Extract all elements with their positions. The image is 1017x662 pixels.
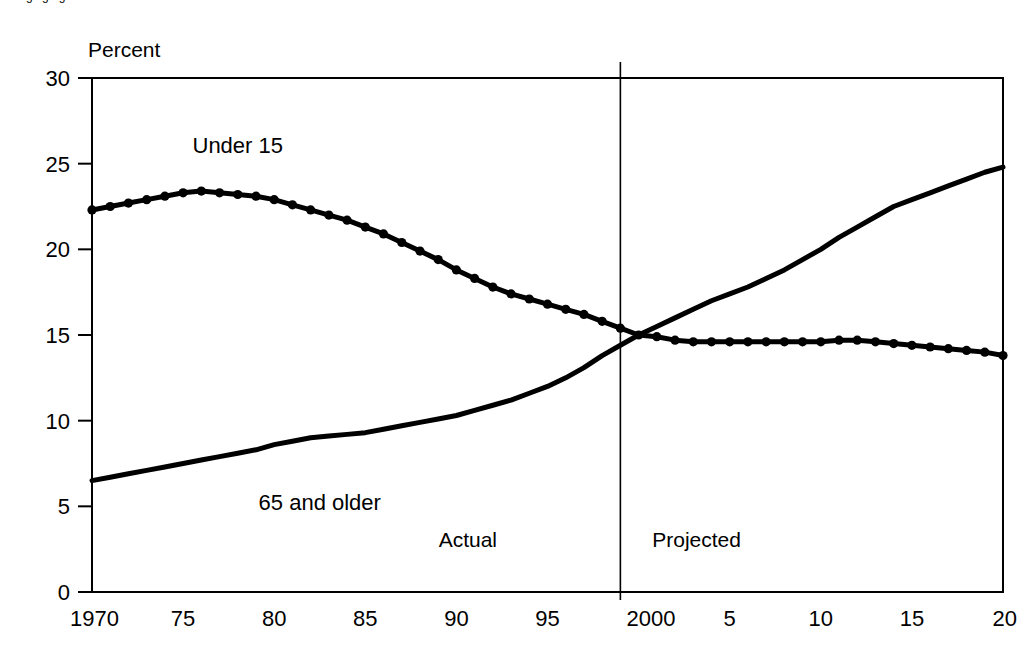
series-marker (616, 324, 625, 333)
series-marker (780, 337, 789, 346)
series-marker (525, 294, 534, 303)
series-marker (142, 195, 151, 204)
x-axis-tick-label: 95 (535, 606, 559, 631)
series-marker (944, 344, 953, 353)
series-marker (652, 332, 661, 341)
series-marker (270, 195, 279, 204)
series-line-0 (92, 191, 1003, 355)
series-marker (889, 339, 898, 348)
series-marker (488, 282, 497, 291)
x-axis-tick-label: 1970 (70, 606, 119, 631)
series-marker (361, 222, 370, 231)
series-marker (762, 337, 771, 346)
x-axis-tick-label: 85 (353, 606, 377, 631)
series-marker (798, 337, 807, 346)
series-marker (689, 337, 698, 346)
series-marker (106, 202, 115, 211)
series-marker (233, 190, 242, 199)
x-axis-tick-label: 10 (809, 606, 833, 631)
series-markers (87, 186, 1007, 360)
projected-label: Projected (652, 528, 741, 551)
y-axis-ticks (78, 78, 92, 592)
series-marker (926, 342, 935, 351)
population-age-line-chart: 051015202530 1970758085909520005101520 U… (0, 0, 1017, 662)
series-marker (342, 216, 351, 225)
series-marker (834, 336, 843, 345)
series-marker (725, 337, 734, 346)
series-marker (160, 192, 169, 201)
series-marker (853, 336, 862, 345)
y-axis-tick-labels: 051015202530 (46, 66, 70, 605)
series-label-1: 65 and older (259, 490, 381, 515)
y-axis-tick-label: 20 (46, 237, 70, 262)
series-marker (598, 317, 607, 326)
series-marker (707, 337, 716, 346)
series-marker (561, 305, 570, 314)
series-marker (998, 351, 1007, 360)
series-marker (470, 274, 479, 283)
series-marker (743, 337, 752, 346)
series-marker (215, 188, 224, 197)
chart-page: changing age structure Percent 051015202… (0, 0, 1017, 662)
series-marker (543, 300, 552, 309)
series-marker (324, 210, 333, 219)
x-axis-tick-label: 15 (900, 606, 924, 631)
series-label-0: Under 15 (193, 133, 284, 158)
x-axis-tick-label: 5 (724, 606, 736, 631)
series-marker (251, 192, 260, 201)
series-marker (980, 348, 989, 357)
series-marker (197, 186, 206, 195)
series-marker (634, 330, 643, 339)
series-marker (670, 336, 679, 345)
y-axis-tick-label: 25 (46, 152, 70, 177)
series-marker (124, 198, 133, 207)
x-axis-tick-label: 2000 (627, 606, 676, 631)
series-line-1 (92, 167, 1003, 481)
series-marker (397, 238, 406, 247)
series-marker (506, 289, 515, 298)
y-axis-tick-label: 30 (46, 66, 70, 91)
series-marker (962, 346, 971, 355)
y-axis-tick-label: 15 (46, 323, 70, 348)
series-marker (179, 188, 188, 197)
series-marker (379, 229, 388, 238)
series-marker (452, 265, 461, 274)
x-axis-tick-label: 75 (171, 606, 195, 631)
x-axis-tick-label: 20 (993, 606, 1017, 631)
series-marker (87, 205, 96, 214)
region-annotations: ActualProjected (439, 528, 741, 551)
x-axis-tick-label: 90 (444, 606, 468, 631)
y-axis-tick-label: 5 (58, 494, 70, 519)
y-axis-tick-label: 0 (58, 580, 70, 605)
x-axis-tick-labels: 1970758085909520005101520 (70, 606, 1017, 631)
series-marker (816, 337, 825, 346)
series-marker (306, 205, 315, 214)
y-axis-tick-label: 10 (46, 409, 70, 434)
x-axis-tick-label: 80 (262, 606, 286, 631)
actual-label: Actual (439, 528, 497, 551)
series-marker (415, 246, 424, 255)
series-lines (92, 167, 1003, 481)
series-marker (579, 310, 588, 319)
series-marker (434, 255, 443, 264)
series-marker (871, 337, 880, 346)
series-marker (288, 200, 297, 209)
series-marker (907, 341, 916, 350)
